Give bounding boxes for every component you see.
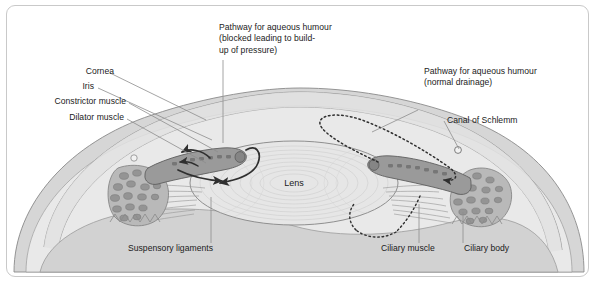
figure-canvas: Lens bbox=[0, 0, 596, 285]
label-cornea: Cornea bbox=[10, 66, 114, 77]
label-ciliary-muscle: Ciliary muscle bbox=[381, 243, 461, 254]
canal-of-schlemm-marker-left bbox=[131, 155, 137, 161]
label-constrictor-muscle: Constrictor muscle bbox=[8, 96, 126, 107]
lens-label: Lens bbox=[284, 178, 304, 188]
label-pathway-normal: Pathway for aqueous humour (normal drain… bbox=[424, 66, 592, 89]
constrictor-muscle-left bbox=[235, 152, 245, 163]
label-canal-of-schlemm: Canal of Schlemm bbox=[447, 115, 577, 126]
label-pathway-blocked: Pathway for aqueous humour (blocked lead… bbox=[219, 22, 379, 56]
label-suspensory-ligaments: Suspensory ligaments bbox=[128, 243, 268, 254]
label-dilator-muscle: Dilator muscle bbox=[14, 112, 124, 123]
label-ciliary-body: Ciliary body bbox=[464, 243, 544, 254]
label-iris: Iris bbox=[10, 81, 94, 92]
